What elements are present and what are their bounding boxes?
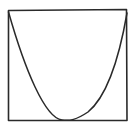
parabola-curve [9, 12, 128, 120]
diagram-canvas [0, 0, 137, 129]
